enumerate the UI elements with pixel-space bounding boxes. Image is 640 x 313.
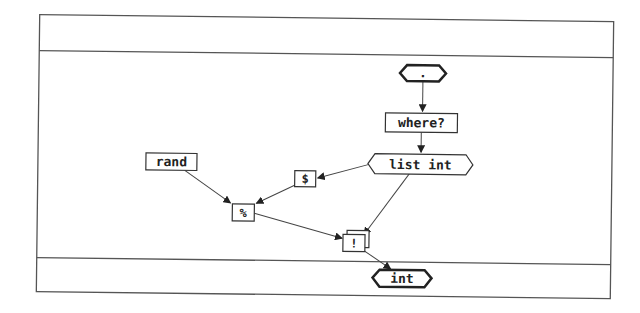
where-node-label: where? bbox=[398, 115, 445, 131]
dollar-node[interactable]: $ bbox=[295, 171, 316, 187]
edge-listint-bang bbox=[364, 173, 410, 236]
percent-node[interactable]: % bbox=[232, 204, 254, 221]
output-node-label: int bbox=[390, 271, 414, 286]
bang-node[interactable]: ! bbox=[343, 234, 365, 251]
edge-rand-percent bbox=[184, 170, 230, 203]
bang-node-label: ! bbox=[350, 236, 357, 250]
rand-node[interactable]: rand bbox=[146, 153, 197, 171]
rand-node-label: rand bbox=[156, 154, 187, 169]
diagram-canvas: . where? list int rand $ % ! int bbox=[0, 0, 640, 313]
diagram-graphics bbox=[0, 0, 640, 313]
where-node[interactable]: where? bbox=[385, 113, 457, 133]
input-node-label: . bbox=[419, 65, 427, 80]
dollar-node-label: $ bbox=[302, 172, 309, 186]
input-node[interactable]: . bbox=[400, 63, 446, 82]
list-int-node-label: list int bbox=[389, 156, 452, 172]
edge-bang-output bbox=[364, 251, 391, 269]
edge-dollar-percent bbox=[256, 184, 295, 203]
list-int-node[interactable]: list int bbox=[368, 154, 473, 175]
edge-percent-bang bbox=[254, 213, 342, 238]
output-node[interactable]: int bbox=[372, 270, 431, 288]
edge-listint-dollar bbox=[318, 163, 372, 179]
output-divider bbox=[37, 258, 611, 265]
header-divider bbox=[39, 51, 613, 58]
percent-node-label: % bbox=[240, 206, 247, 220]
